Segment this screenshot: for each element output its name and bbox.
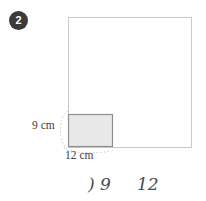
handwritten-answer-second: 12 — [137, 174, 159, 194]
handwritten-answer-row: ) 9 12 — [0, 174, 206, 201]
handwritten-answer-first: ) 9 — [88, 174, 111, 194]
shaded-rectangle — [69, 115, 113, 147]
corner-arc-guide-left — [61, 111, 69, 150]
height-dimension-label: 9 cm — [32, 119, 55, 131]
figure-svg — [0, 0, 206, 201]
geometry-figure: 9 cm 12 cm — [0, 0, 206, 201]
width-dimension-label: 12 cm — [65, 149, 93, 161]
worksheet-page: 2 9 cm 12 cm ) 9 12 — [0, 0, 206, 201]
